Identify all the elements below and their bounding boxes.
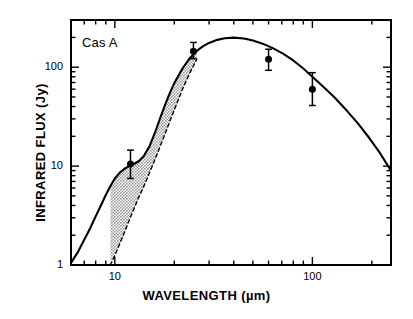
y-axis-tick-label: 100 bbox=[15, 60, 63, 72]
y-axis-tick-label: 10 bbox=[15, 159, 63, 171]
x-axis-tick-label: 100 bbox=[287, 270, 337, 282]
x-axis-tick-label: 10 bbox=[90, 270, 140, 282]
y-axis-title: INFRARED FLUX (Jy) bbox=[33, 53, 48, 253]
chart-figure: INFRARED FLUX (Jy) WAVELENGTH (µm) Cas A… bbox=[0, 0, 413, 319]
x-axis-title: WAVELENGTH (µm) bbox=[0, 288, 413, 303]
shaded-excess-region bbox=[110, 51, 196, 265]
y-axis-tick-label: 1 bbox=[15, 258, 63, 270]
chart-annotation-label: Cas A bbox=[82, 35, 118, 50]
